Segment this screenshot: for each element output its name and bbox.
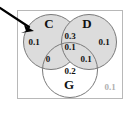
- region-value-g-only: 0.2: [60, 67, 80, 76]
- region-value-d-and-g: 0.1: [76, 55, 96, 64]
- region-value-c-only: 0.1: [24, 38, 44, 47]
- region-value-c-d-g: 0.1: [60, 43, 80, 52]
- set-label-g: G: [62, 78, 76, 91]
- region-value-d-only: 0.1: [94, 38, 114, 47]
- set-label-c: C: [42, 17, 56, 30]
- venn-diagram-figure: C D G 0.1 0.1 0.3 0.1 0 0.1 0.2 0.1: [0, 0, 132, 113]
- region-value-c-and-g: 0: [42, 55, 54, 64]
- region-value-outside: 0.1: [100, 83, 120, 92]
- set-label-d: D: [80, 17, 94, 30]
- region-value-c-and-d: 0.3: [60, 32, 80, 41]
